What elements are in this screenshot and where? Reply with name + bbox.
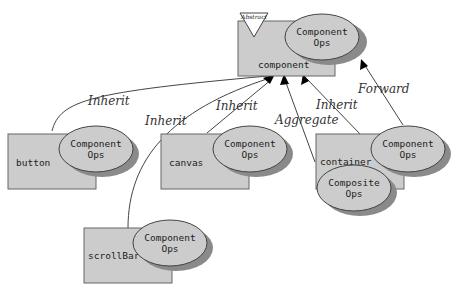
canvas-ops-line2: Ops	[241, 149, 258, 160]
container-ops-line1: Component	[382, 138, 433, 149]
canvas-ops-line1: Component	[224, 138, 275, 149]
edge-label-inherit-canvas: Inherit	[215, 99, 258, 113]
scrollbar-label: scrollBar	[88, 250, 140, 261]
node-button[interactable]: button Component Ops	[8, 126, 139, 189]
edge-label-inherit-scrollbar: Inherit	[144, 114, 187, 128]
component-ops-line2: Ops	[313, 37, 330, 48]
edge-label-aggregate: Aggregate	[274, 113, 339, 127]
edge-label-inherit-button: Inherit	[87, 94, 130, 108]
node-container[interactable]: container Component Ops Composite Ops	[316, 126, 451, 216]
scrollbar-ops-line2: Ops	[161, 243, 178, 254]
node-scrollbar[interactable]: scrollBar Component Ops	[84, 220, 213, 283]
button-label: button	[16, 157, 50, 168]
node-canvas[interactable]: canvas Component Ops	[161, 126, 293, 189]
button-ops-line2: Ops	[87, 149, 104, 160]
composite-ops-line2: Ops	[345, 188, 362, 199]
abstract-badge-label: Abstract	[240, 13, 267, 20]
node-component[interactable]: component Component Ops Abstract	[238, 13, 367, 76]
canvas-label: canvas	[169, 157, 203, 168]
scrollbar-ops-line1: Component	[144, 232, 195, 243]
container-ops-line2: Ops	[399, 149, 416, 160]
component-label: component	[258, 59, 309, 70]
button-ops-line1: Component	[70, 138, 121, 149]
class-diagram: Inherit Inherit Inherit Aggregate Inheri…	[0, 0, 458, 294]
edge-label-forward: Forward	[357, 82, 410, 96]
composite-ops-line1: Composite	[328, 177, 380, 188]
component-ops-line1: Component	[296, 26, 347, 37]
edge-label-inherit-container: Inherit	[315, 98, 358, 112]
